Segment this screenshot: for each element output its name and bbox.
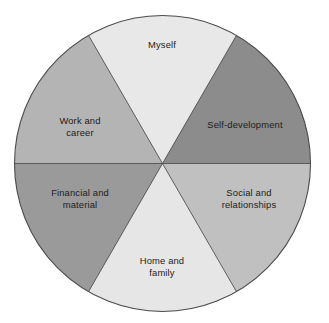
pie-label-self-development: Self-development: [207, 119, 283, 130]
pie-label-myself: Myself: [148, 39, 176, 50]
pie-label-social-and-relationships: Social andrelationships: [222, 187, 277, 210]
pie-chart: Myself Self-development Social andrelati…: [0, 0, 329, 323]
life-balance-wheel-figure: Myself Self-development Social andrelati…: [0, 0, 329, 323]
